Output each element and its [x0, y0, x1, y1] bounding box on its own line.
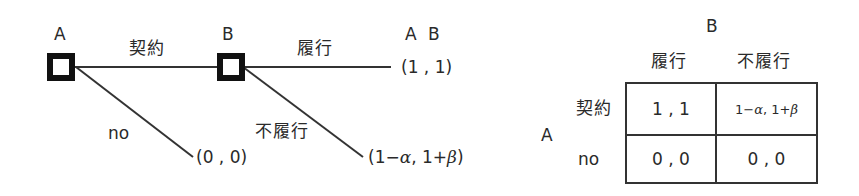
edge-label-contract: 契約 [129, 40, 165, 57]
edge-a-no [76, 67, 193, 157]
matrix-cell-no-not-perform: 0 , 0 [717, 136, 816, 182]
payoff-not-perform: (1−α, 1+β) [368, 149, 464, 166]
cell-part-mid: , 1+ [763, 102, 790, 117]
matrix-cell-contract-not-perform: 1− α, 1+ β [717, 84, 816, 134]
payoff-perform: (1 , 1) [401, 59, 452, 76]
payoff-no: (0 , 0) [196, 149, 247, 166]
edge-b-not-perform [243, 67, 363, 157]
matrix-col-header-perform: 履行 [651, 53, 687, 70]
matrix-column-player: B [706, 18, 718, 35]
alpha-symbol: α [400, 147, 411, 167]
cell-part-a: 1− [735, 102, 754, 117]
node-b-label: B [222, 26, 234, 43]
alpha-symbol: α [754, 102, 763, 117]
matrix-row-header-no: no [578, 151, 599, 168]
payoff-np-prefix: (1− [368, 147, 400, 167]
payoff-header: A B [405, 26, 440, 43]
payoff-np-mid: , 1+ [411, 147, 447, 167]
beta-symbol: β [447, 147, 457, 167]
matrix-row-player: A [541, 127, 553, 144]
payoff-matrix-table: 1 , 1 1− α, 1+ β 0 , 0 0 , 0 [625, 82, 818, 184]
matrix-cell-no-perform: 0 , 0 [627, 136, 715, 182]
matrix-cell-contract-perform: 1 , 1 [627, 84, 715, 134]
beta-symbol: β [790, 102, 798, 117]
matrix-row-header-contract: 契約 [576, 100, 612, 117]
edge-label-perform: 履行 [297, 40, 333, 57]
decision-node-a [50, 56, 72, 78]
payoff-np-suffix: ) [457, 147, 464, 167]
edge-label-not-perform: 不履行 [255, 123, 309, 140]
edge-label-no: no [108, 125, 129, 142]
node-a-label: A [54, 26, 66, 43]
matrix-col-header-not-perform: 不履行 [737, 53, 791, 70]
decision-node-b [220, 56, 242, 78]
